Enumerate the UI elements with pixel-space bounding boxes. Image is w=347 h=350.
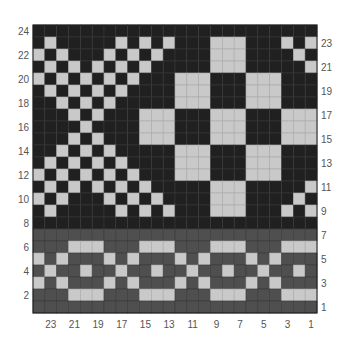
chart-cell-row1-stitch5 [258, 301, 270, 313]
row-label-18: 18 [18, 98, 30, 109]
chart-cell-row7-stitch15 [140, 229, 152, 241]
chart-cell-row15-stitch18 [104, 133, 116, 145]
chart-cell-row14-stitch10 [199, 145, 211, 157]
chart-cell-row24-stitch12 [175, 25, 187, 37]
chart-cell-row5-stitch12 [175, 253, 187, 265]
chart-cell-row9-stitch9 [211, 205, 223, 217]
chart-cell-row17-stitch4 [270, 109, 282, 121]
chart-cell-row22-stitch18 [104, 49, 116, 61]
chart-cell-row5-stitch22 [57, 253, 69, 265]
chart-cell-row10-stitch4 [270, 193, 282, 205]
chart-cell-row21-stitch21 [69, 61, 81, 73]
chart-cell-row7-stitch13 [163, 229, 175, 241]
chart-cell-row24-stitch5 [258, 25, 270, 37]
chart-cell-row17-stitch18 [104, 109, 116, 121]
chart-cell-row21-stitch14 [151, 61, 163, 73]
chart-cell-row21-stitch15 [140, 61, 152, 73]
chart-cell-row17-stitch17 [116, 109, 128, 121]
chart-cell-row4-stitch2 [293, 265, 305, 277]
chart-cell-row4-stitch1 [305, 265, 317, 277]
chart-cell-row10-stitch12 [175, 193, 187, 205]
chart-cell-row7-stitch10 [199, 229, 211, 241]
chart-cell-row3-stitch15 [140, 277, 152, 289]
chart-cell-row7-stitch1 [305, 229, 317, 241]
row-label-19: 19 [321, 86, 333, 97]
chart-cell-row16-stitch4 [270, 121, 282, 133]
chart-cell-row4-stitch4 [270, 265, 282, 277]
chart-cell-row11-stitch24 [33, 181, 45, 193]
chart-cell-row2-stitch19 [92, 289, 104, 301]
chart-cell-row16-stitch8 [222, 121, 234, 133]
chart-cell-row16-stitch17 [116, 121, 128, 133]
row-label-23: 23 [321, 38, 333, 49]
chart-cell-row10-stitch19 [92, 193, 104, 205]
chart-cell-row16-stitch22 [57, 121, 69, 133]
chart-cell-row12-stitch13 [163, 169, 175, 181]
chart-cell-row18-stitch22 [57, 97, 69, 109]
chart-cell-row8-stitch23 [45, 217, 57, 229]
chart-cell-row18-stitch14 [151, 97, 163, 109]
chart-cell-row24-stitch13 [163, 25, 175, 37]
chart-cell-row7-stitch2 [293, 229, 305, 241]
chart-cell-row21-stitch13 [163, 61, 175, 73]
chart-cell-row23-stitch17 [116, 37, 128, 49]
row-label-12: 12 [18, 170, 30, 181]
row-label-5: 5 [321, 254, 327, 265]
chart-cell-row16-stitch18 [104, 121, 116, 133]
chart-cell-row15-stitch9 [211, 133, 223, 145]
chart-cell-row6-stitch16 [128, 241, 140, 253]
chart-cell-row1-stitch3 [282, 301, 294, 313]
chart-cell-row2-stitch1 [305, 289, 317, 301]
chart-cell-row21-stitch20 [80, 61, 92, 73]
chart-cell-row19-stitch14 [151, 85, 163, 97]
chart-cell-row6-stitch7 [234, 241, 246, 253]
chart-cell-row12-stitch15 [140, 169, 152, 181]
chart-cell-row22-stitch4 [270, 49, 282, 61]
chart-cell-row13-stitch18 [104, 157, 116, 169]
chart-cell-row24-stitch11 [187, 25, 199, 37]
chart-cell-row7-stitch17 [116, 229, 128, 241]
chart-cell-row5-stitch19 [92, 253, 104, 265]
chart-cell-row13-stitch9 [211, 157, 223, 169]
chart-cell-row12-stitch20 [80, 169, 92, 181]
chart-cell-row11-stitch9 [211, 181, 223, 193]
chart-cell-row17-stitch13 [163, 109, 175, 121]
chart-cell-row15-stitch20 [80, 133, 92, 145]
row-label-14: 14 [18, 146, 30, 157]
row-label-16: 16 [18, 122, 30, 133]
chart-cell-row22-stitch12 [175, 49, 187, 61]
chart-cell-row15-stitch3 [282, 133, 294, 145]
chart-cell-row14-stitch1 [305, 145, 317, 157]
chart-cell-row2-stitch10 [199, 289, 211, 301]
chart-cell-row1-stitch14 [151, 301, 163, 313]
chart-cell-row19-stitch15 [140, 85, 152, 97]
chart-cell-row20-stitch5 [258, 73, 270, 85]
chart-cell-row24-stitch9 [211, 25, 223, 37]
chart-cell-row4-stitch6 [246, 265, 258, 277]
chart-cell-row18-stitch4 [270, 97, 282, 109]
chart-cell-row23-stitch10 [199, 37, 211, 49]
chart-cell-row19-stitch20 [80, 85, 92, 97]
stitch-label-9: 9 [214, 319, 220, 330]
chart-cell-row4-stitch17 [116, 265, 128, 277]
chart-cell-row24-stitch22 [57, 25, 69, 37]
stitch-label-15: 15 [140, 319, 152, 330]
chart-cell-row24-stitch4 [270, 25, 282, 37]
chart-cell-row14-stitch12 [175, 145, 187, 157]
chart-cell-row8-stitch6 [246, 217, 258, 229]
chart-cell-row10-stitch6 [246, 193, 258, 205]
chart-cell-row21-stitch18 [104, 61, 116, 73]
chart-cell-row13-stitch6 [246, 157, 258, 169]
chart-cell-row24-stitch3 [282, 25, 294, 37]
chart-cell-row15-stitch15 [140, 133, 152, 145]
chart-cell-row12-stitch6 [246, 169, 258, 181]
chart-cell-row19-stitch22 [57, 85, 69, 97]
chart-cell-row15-stitch1 [305, 133, 317, 145]
chart-cell-row6-stitch19 [92, 241, 104, 253]
chart-cell-row2-stitch6 [246, 289, 258, 301]
chart-cell-row4-stitch12 [175, 265, 187, 277]
chart-cell-row2-stitch17 [116, 289, 128, 301]
chart-cell-row9-stitch20 [80, 205, 92, 217]
chart-cell-row1-stitch8 [222, 301, 234, 313]
chart-cell-row3-stitch13 [163, 277, 175, 289]
